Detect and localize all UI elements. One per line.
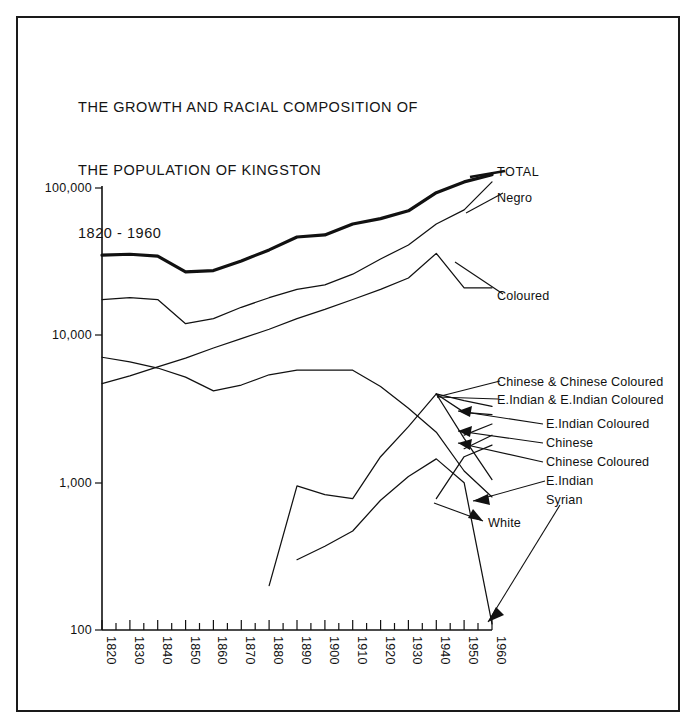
xtick-label-1870: 1870 <box>243 636 257 665</box>
xtick-label-1890: 1890 <box>299 636 313 665</box>
series-label-chinese-coloured: Chinese Coloured <box>546 455 649 469</box>
series-label-chinese: Chinese <box>546 436 593 450</box>
series-path-negro <box>102 182 492 324</box>
series-layer <box>102 175 492 624</box>
ytick-label-1000: 1,000 <box>59 476 92 490</box>
series-label-eindian-coloured: E.Indian Coloured <box>546 417 649 431</box>
xtick-label-1900: 1900 <box>327 636 341 665</box>
chart-plot: 100,000 10,000 1,000 100 <box>0 0 689 725</box>
xtick-label-1950: 1950 <box>466 636 480 665</box>
xtick-label-1820: 1820 <box>104 636 118 665</box>
xtick-label-1850: 1850 <box>188 636 202 665</box>
series-label-negro: Negro <box>497 191 532 205</box>
leader-chinese-and-chinese-coloured <box>437 381 500 397</box>
axis-x-ticks <box>102 620 492 630</box>
xtick-label-1940: 1940 <box>438 636 452 665</box>
series-label-chinese-and-chinese-coloured: Chinese & Chinese Coloured <box>497 375 663 389</box>
xtick-label-1960: 1960 <box>494 636 508 665</box>
series-path-white <box>102 357 492 497</box>
arrowhead-eindian <box>473 494 490 505</box>
page-root: THE GROWTH AND RACIAL COMPOSITION OF THE… <box>0 0 689 725</box>
leader-eindian-and-eindian-coloured <box>437 397 498 399</box>
series-label-coloured: Coloured <box>497 289 549 303</box>
series-label-white: White <box>488 516 521 530</box>
series-path-coloured <box>102 253 492 383</box>
series-label-eindian: E.Indian <box>546 474 593 488</box>
series-label-total: TOTAL <box>497 165 539 179</box>
ytick-label-100: 100 <box>70 623 92 637</box>
xtick-label-1880: 1880 <box>271 636 285 665</box>
xtick-label-1930: 1930 <box>410 636 424 665</box>
series-path-syrian <box>297 459 492 624</box>
axis-y-labels: 100,000 10,000 1,000 100 <box>45 181 92 637</box>
xtick-label-1840: 1840 <box>160 636 174 665</box>
series-labels: TOTAL Negro Coloured Chinese & Chinese C… <box>488 165 664 530</box>
ytick-label-10000: 10,000 <box>52 328 92 342</box>
ytick-label-100000: 100,000 <box>45 181 92 195</box>
series-label-syrian: Syrian <box>546 493 583 507</box>
axis-x-labels: 1820 1830 1840 1850 1860 1870 1880 1890 … <box>104 636 508 665</box>
leader-coloured <box>455 262 503 294</box>
series-label-eindian-and-eindian-coloured: E.Indian & E.Indian Coloured <box>497 393 664 407</box>
xtick-label-1910: 1910 <box>355 636 369 665</box>
xtick-label-1830: 1830 <box>132 636 146 665</box>
series-path-total <box>102 175 492 272</box>
xtick-label-1920: 1920 <box>383 636 397 665</box>
arrowhead-eindian-coloured <box>458 406 472 417</box>
leader-eindian-coloured <box>458 411 543 424</box>
xtick-label-1860: 1860 <box>215 636 229 665</box>
